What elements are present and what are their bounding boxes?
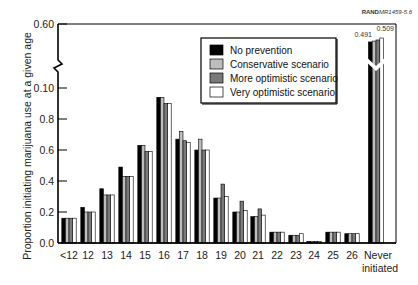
bar [233, 212, 237, 243]
bar-chart: RANDMR1459-5.6 Proportion initiating mar… [0, 0, 418, 285]
bar [217, 198, 221, 243]
x-tick-label: initiated [362, 262, 398, 274]
bar [296, 235, 300, 243]
y-axis-line-break [54, 24, 62, 243]
bar [202, 150, 206, 243]
x-tick-label: <12 [60, 249, 78, 261]
bar [300, 234, 304, 243]
bar [225, 197, 229, 244]
bar [198, 139, 202, 243]
bar [111, 195, 115, 243]
bar [119, 167, 123, 243]
bar [273, 232, 277, 243]
bar [168, 104, 172, 244]
y-tick-label: 0.8 [39, 113, 54, 125]
bar [221, 184, 225, 243]
bar [73, 218, 77, 243]
annotations: 0.4910.509 [354, 25, 394, 38]
bar [258, 209, 262, 243]
x-tick-label: 25 [327, 249, 339, 261]
x-tick-label: 23 [290, 249, 302, 261]
x-tick-label: 17 [177, 249, 189, 261]
y-tick-label: 0.4 [39, 175, 54, 187]
bar [345, 234, 349, 243]
bar [160, 97, 164, 243]
legend-label: More optimistic scenario [230, 73, 338, 84]
figure-credit: RANDMR1459-5.6 [362, 9, 413, 15]
bar [164, 104, 168, 244]
y-ticks: 0.00.20.40.60.80.100.60 [34, 18, 67, 249]
x-tick-label: 26 [346, 249, 358, 261]
bar [65, 218, 69, 243]
x-tick-label: 14 [120, 249, 132, 261]
bar [244, 210, 248, 243]
bar [206, 150, 210, 243]
x-tick-label: 16 [158, 249, 170, 261]
bar [126, 176, 130, 243]
annotation-label: 0.491 [354, 31, 372, 38]
bar [240, 201, 244, 243]
legend-label: Conservative scenario [230, 59, 329, 70]
legend-swatch [210, 45, 223, 55]
y-tick-label: 0.6 [39, 144, 54, 156]
bar [122, 176, 126, 243]
bar [380, 38, 384, 243]
bar [141, 145, 145, 243]
x-tick-label: Never [364, 249, 393, 261]
bar [176, 139, 180, 243]
x-tick-label: 21 [252, 249, 264, 261]
bar [195, 150, 199, 243]
bar [149, 152, 153, 243]
bar [337, 232, 341, 243]
bar [333, 232, 337, 243]
bar [262, 215, 266, 243]
bar [157, 97, 161, 243]
y-tick-label: 0.0 [39, 237, 54, 249]
bar [326, 232, 330, 243]
bar [289, 235, 293, 243]
legend: No preventionConservative scenarioMore o… [201, 38, 338, 104]
credit-bold: RAND [362, 9, 380, 15]
x-tick-label: 24 [308, 249, 320, 261]
bar [372, 41, 376, 243]
bar [187, 142, 191, 243]
x-tick-label: 15 [139, 249, 151, 261]
legend-label: Very optimistic scenario [230, 87, 335, 98]
x-tick-label: 20 [234, 249, 246, 261]
x-tick-label: 22 [271, 249, 283, 261]
bar [270, 232, 274, 243]
y-axis-label: Proportion initiating marijuana use at a… [21, 32, 33, 260]
bar [356, 234, 360, 243]
legend-swatch [210, 59, 223, 69]
x-tick-label: 18 [196, 249, 208, 261]
x-tick-labels: <12121314151617181920212223242526Neverin… [60, 249, 398, 274]
bar [292, 235, 296, 243]
legend-swatch [210, 87, 223, 97]
bar [145, 152, 149, 243]
bar [214, 198, 218, 243]
bar [352, 234, 356, 243]
svg-text:RANDMR1459-5.6: RANDMR1459-5.6 [362, 9, 413, 15]
bar [281, 232, 285, 243]
bar [236, 212, 240, 243]
credit-italic: MR1459-5.6 [379, 9, 413, 15]
bar [130, 176, 134, 243]
x-tick-label: 13 [101, 249, 113, 261]
legend-swatch [210, 73, 223, 83]
x-tick-label: 12 [82, 249, 94, 261]
legend-label: No prevention [230, 45, 292, 56]
y-tick-label: 0.10 [34, 82, 55, 94]
bar [183, 141, 187, 243]
bar [69, 218, 73, 243]
y-axis-title: Proportion initiating marijuana use at a… [21, 32, 33, 260]
bar [138, 145, 142, 243]
bar [100, 189, 104, 243]
bar [251, 217, 255, 243]
bar [348, 234, 352, 243]
x-tick-label: 19 [215, 249, 227, 261]
bar [88, 212, 92, 243]
bar [179, 131, 183, 243]
bar [277, 232, 281, 243]
bar [62, 218, 66, 243]
bar [92, 212, 96, 243]
